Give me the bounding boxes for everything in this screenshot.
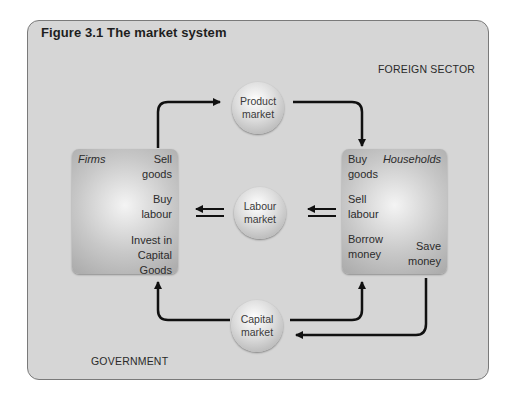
firms-sell-goods: Sell goods [122,152,172,182]
households-save: Save money [396,239,441,269]
households-sell-labour: Sell labour [348,192,388,222]
capital-market-label: Capital market [241,313,274,339]
product-market-node: Product market [232,82,284,134]
labour-market-node: Labour market [234,187,286,239]
firms-invest: Invest in Capital Goods [112,233,172,278]
labour-market-label: Labour market [244,200,277,226]
product-market-label: Product market [240,95,276,121]
households-borrow: Borrow money [348,232,398,262]
households-label: Households [383,152,441,167]
households-box: Buy goods Households Sell labour Borrow … [342,149,447,274]
capital-market-node: Capital market [231,300,283,352]
firms-label: Firms [78,152,106,167]
firms-buy-labour: Buy labour [122,192,172,222]
firms-box: Firms Sell goods Buy labour Invest in Ca… [72,149,178,274]
